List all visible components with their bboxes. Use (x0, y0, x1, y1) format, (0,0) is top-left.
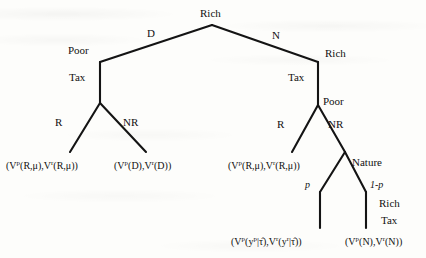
node-label-poor-left: Poor (68, 45, 89, 56)
payoff-text: (V (231, 236, 242, 247)
payoff-text: (N)) (385, 236, 402, 247)
edge-label-right-R: R (277, 119, 284, 130)
payoff-text: (R,μ),V (20, 160, 51, 171)
edge-label-root-D: D (147, 28, 155, 39)
edge-right-R (292, 105, 318, 152)
payoff-text: (D),V (128, 160, 152, 171)
payoff-text: (R,μ)) (275, 160, 300, 171)
figure-canvas: Rich Poor Rich Tax Tax Poor Nature D N R… (0, 0, 426, 258)
game-tree-edges (0, 0, 426, 258)
payoff-text: (V (6, 160, 17, 171)
edge-label-left-NR: NR (123, 117, 138, 128)
edge-root-N (212, 25, 318, 62)
label-bottom-tax: Tax (381, 215, 397, 226)
edge-label-probability-1-p: 1-p (370, 180, 383, 190)
edge-nature-p (320, 152, 345, 192)
edge-label-root-N: N (272, 30, 280, 41)
payoff-text: (R,μ)) (53, 160, 78, 171)
edge-label-tax-right: Tax (288, 72, 304, 83)
node-label-poor-right: Poor (323, 96, 344, 107)
payoff-left-NR: (Vp(D),Vr(D)) (114, 160, 171, 171)
label-bottom-rich: Rich (379, 198, 400, 209)
node-label-root-rich: Rich (200, 8, 221, 19)
payoff-nature-1-p: (Vp(N),Vr(N)) (345, 236, 402, 247)
payoff-text: (V (345, 236, 356, 247)
payoff-text: |τ̂)) (289, 236, 302, 247)
payoff-text: |τ̂),V (257, 236, 276, 247)
edge-left-R (70, 103, 100, 152)
edge-label-left-R: R (55, 117, 62, 128)
payoff-text: (R,μ),V (242, 160, 273, 171)
payoff-left-R: (Vp(R,μ),Vr(R,μ)) (6, 160, 78, 171)
edge-label-probability-p: p (305, 180, 310, 190)
edge-label-right-NR: NR (328, 119, 343, 130)
payoff-text: (y (278, 236, 286, 247)
node-label-nature: Nature (352, 157, 382, 168)
payoff-right-R: (Vp(R,μ),Vr(R,μ)) (228, 160, 300, 171)
edge-root-D (100, 25, 212, 62)
payoff-text: (D)) (154, 160, 171, 171)
payoff-text: (N),V (359, 236, 383, 247)
payoff-text: (V (228, 160, 239, 171)
edge-label-tax-left: Tax (69, 72, 85, 83)
payoff-nature-p: (Vp(yp|τ̂),Vr(yr|τ̂)) (231, 236, 302, 247)
node-label-rich-right: Rich (325, 48, 346, 59)
payoff-text: (V (114, 160, 125, 171)
